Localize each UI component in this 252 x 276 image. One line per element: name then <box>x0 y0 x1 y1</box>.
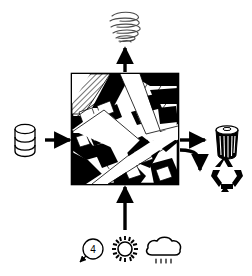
emissions-flow <box>110 12 140 72</box>
recycling-symbol-icon <box>211 155 243 192</box>
city-block-map <box>72 74 178 184</box>
smoke-spiral-icon <box>110 12 140 42</box>
resource-input-flow <box>15 124 70 156</box>
waste-output-flow <box>180 126 238 159</box>
wind-indicator-icon: 4 <box>80 239 103 262</box>
rain-cloud-icon <box>147 237 181 263</box>
barrel-cylinder-icon <box>15 124 35 156</box>
diagram-canvas: 4 <box>0 0 252 276</box>
trash-bin-icon <box>216 126 238 159</box>
wind-indicator-value: 4 <box>90 244 96 255</box>
climate-input-flow: 4 <box>80 187 181 263</box>
urban-metabolism-diagram: 4 <box>0 0 252 276</box>
curved-arrow-recycling <box>180 150 200 170</box>
sun-icon <box>112 236 138 262</box>
raindrops <box>156 259 171 263</box>
